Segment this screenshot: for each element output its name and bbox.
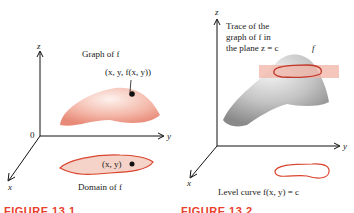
z-axis-label: z — [215, 7, 219, 17]
x-axis — [191, 146, 217, 177]
y-axis-label: y — [343, 141, 347, 151]
surface-graph — [60, 88, 160, 126]
graph-label: Graph of f — [82, 49, 120, 59]
figure-graph-of-f: z 0 y x Graph of f (x, y, f(x, y)) (x, y… — [0, 0, 177, 213]
domain-point — [130, 162, 135, 167]
x-axis-label: x — [8, 182, 12, 192]
domain-label: Domain of f — [78, 182, 122, 192]
trace-label-line-3: the plane z = c — [226, 43, 279, 53]
figure-caption: FIGURE 13.2 — [181, 205, 253, 213]
x-axis — [9, 136, 40, 180]
x-axis-label: x — [187, 178, 191, 188]
surface-point — [129, 91, 135, 97]
plane-z-c — [259, 65, 339, 78]
level-curve-label: Level curve f(x, y) = c — [218, 187, 299, 197]
domain-point-label: (x, y) — [102, 159, 122, 169]
y-axis-label: y — [167, 131, 171, 141]
figure-caption: FIGURE 13.1 — [4, 205, 76, 213]
figure-level-curve: z y x Trace of the graph of f in the pla… — [177, 0, 354, 213]
trace-label-line-1: Trace of the — [226, 21, 269, 31]
level-curve — [275, 164, 329, 178]
z-axis-label: z — [37, 41, 41, 51]
surface-label: f — [312, 43, 315, 53]
origin-label: 0 — [30, 130, 35, 140]
point-label: (x, y, f(x, y)) — [105, 67, 151, 77]
trace-label-line-2: graph of f in — [226, 32, 271, 42]
